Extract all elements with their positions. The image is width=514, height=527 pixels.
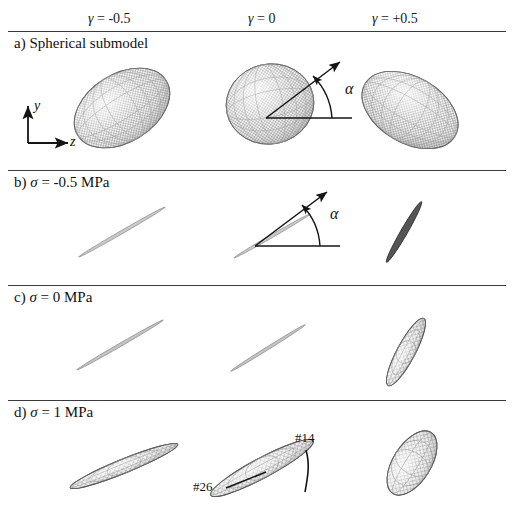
axis-label-z: z: [70, 134, 75, 150]
ellipsoid-a-gamma-neg05: [60, 52, 184, 165]
axis-label-y: y: [34, 98, 40, 114]
leader-line-26: [226, 472, 266, 488]
ellipsoid-a-gamma-pos05: [348, 55, 471, 164]
ellipsoid-c-gamma-pos05: [380, 314, 432, 390]
column-header-gamma-0: γ = 0: [248, 11, 275, 27]
rule-row-c: [8, 285, 506, 286]
leader-line-14: [305, 450, 308, 492]
row-label-c: c) σ = 0 MPa: [14, 289, 92, 306]
figure-graphics: [0, 0, 514, 527]
tag-14-label: #14: [295, 430, 315, 446]
ellipsoid-a-gamma-0: [219, 56, 322, 153]
row-label-d: d) σ = 1 MPa: [14, 404, 93, 421]
rule-row-b: [8, 170, 506, 171]
figure-canvas: γ = -0.5 γ = 0 γ = +0.5 a) Spherical sub…: [0, 0, 514, 527]
alpha-annotation-row-b: [255, 192, 340, 246]
row-label-a: a) Spherical submodel: [14, 35, 148, 52]
ellipsoid-c-gamma-neg05: [76, 319, 164, 372]
row-label-b: b) σ = -0.5 MPa: [14, 174, 109, 191]
ellipsoid-b-gamma-neg05: [78, 206, 166, 259]
column-header-gamma-neg05: γ = -0.5: [88, 11, 131, 27]
column-header-gamma-pos05: γ = +0.5: [372, 11, 418, 27]
rule-row-a: [8, 31, 506, 32]
ellipsoid-d-gamma-neg05: [68, 438, 181, 494]
alpha-label-row-a: α: [345, 80, 353, 98]
ellipsoid-d-gamma-pos05: [377, 422, 447, 503]
ellipsoid-b-gamma-pos05: [384, 200, 425, 264]
ellipsoid-c-gamma-0: [230, 323, 306, 372]
rule-row-d: [8, 400, 506, 401]
ellipsoid-b-gamma-0: [233, 213, 311, 260]
alpha-annotation-row-a: [266, 62, 352, 118]
alpha-label-row-b: α: [330, 205, 338, 223]
tag-26-label: #26: [193, 479, 213, 495]
